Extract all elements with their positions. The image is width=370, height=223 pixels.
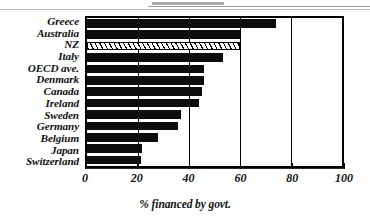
x-tick-label: 100 (335, 171, 353, 186)
bar-row (87, 98, 342, 109)
title-hairline-bottom (0, 9, 370, 10)
bar (87, 65, 204, 74)
bar (87, 99, 199, 108)
category-label: Switzerland (0, 156, 82, 168)
bar-highlight (87, 42, 240, 51)
bar-row (87, 52, 342, 63)
x-tick (344, 163, 345, 169)
bar (87, 30, 240, 39)
bar (87, 156, 141, 165)
bar-row (87, 143, 342, 154)
cropped-title-rule (152, 2, 224, 5)
x-tick-label: 40 (183, 171, 195, 186)
chart-figure: GreeceAustraliaNZItalyOECD ave.DenmarkCa… (0, 0, 370, 223)
bar (87, 122, 178, 131)
bar (87, 76, 204, 85)
x-axis-tick-labels: 020406080100 (85, 171, 344, 187)
x-tick (85, 163, 86, 169)
category-axis-labels: GreeceAustraliaNZItalyOECD ave.DenmarkCa… (0, 16, 82, 168)
bar-row (87, 86, 342, 97)
bar (87, 133, 158, 142)
bar-row (87, 29, 342, 40)
bar (87, 87, 202, 96)
bar (87, 110, 181, 119)
bar-row (87, 109, 342, 120)
category-label: Italy (0, 51, 82, 63)
category-label: Ireland (0, 98, 82, 110)
bar-row (87, 18, 342, 29)
bar-rows (87, 18, 342, 166)
category-label: Canada (0, 86, 82, 98)
bar-row (87, 121, 342, 132)
bar-row (87, 41, 342, 52)
bar (87, 53, 223, 62)
x-tick-label: 0 (82, 171, 88, 186)
bar-row (87, 132, 342, 143)
bar-row (87, 75, 342, 86)
plot-inner (87, 18, 342, 166)
x-tick-label: 80 (286, 171, 298, 186)
bar (87, 144, 142, 153)
title-hairline-top (148, 6, 370, 7)
category-label: Greece (0, 16, 82, 28)
plot-area (85, 16, 344, 168)
x-axis-title: % financed by govt. (0, 198, 370, 210)
bar-row (87, 64, 342, 75)
bar-row (87, 155, 342, 166)
x-tick-label: 60 (234, 171, 246, 186)
category-label: Belgium (0, 133, 82, 145)
x-tick-label: 20 (131, 171, 143, 186)
bar (87, 19, 276, 28)
